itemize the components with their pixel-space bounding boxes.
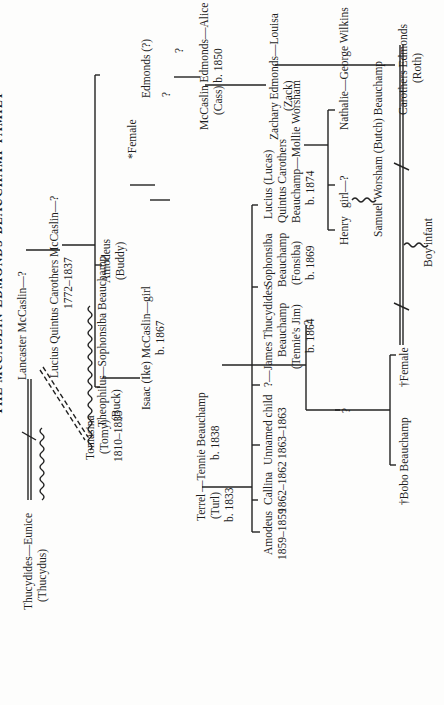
person-nathalie-george: Nathalie—George Wilkins xyxy=(338,7,351,130)
unknown-child-1: ? xyxy=(302,320,315,325)
unknown-parent-1: ? xyxy=(160,92,173,97)
person-fonsiba: Sophonsiba xyxy=(262,233,275,287)
person-edmonds-unknown: Edmonds (?) xyxy=(140,39,153,98)
person-female-star: *Female xyxy=(126,119,139,159)
person-lancaster-mccaslin: Lancaster McCaslin—? xyxy=(16,271,29,380)
person-bobo-beauchamp: †Bobo Beauchamp xyxy=(398,417,411,505)
person-carothers-edmonds: Carothers Edmonds xyxy=(397,24,410,115)
person-james-nickname: (Tennie's Jim) xyxy=(290,304,303,369)
person-thucydides-eunice: Thucydides—Eunice xyxy=(22,513,35,610)
person-lucius-mccaslin: Lucius Quintus Carothers McCaslin—? xyxy=(48,196,61,378)
person-amodeus-buddy: Amodeus xyxy=(100,239,113,283)
person-unnamed-child-dates: 1863–1863 xyxy=(276,407,289,459)
person-samuel-worsham-beauchamp: Samuel Worsham (Butch) Beauchamp xyxy=(372,61,385,237)
person-mccaslin-edmonds-nickname: (Cass) b. 1850 xyxy=(212,48,225,115)
person-lucas-beauchamp: Lucius (Lucas) xyxy=(262,150,275,219)
person-girl: girl—? xyxy=(338,175,351,208)
person-zachary-edmonds: Zachary Edmonds—Louisa xyxy=(268,13,281,140)
person-callina: Callina xyxy=(262,472,275,505)
person-terrel-born: b. 1833 xyxy=(223,488,236,523)
person-thucydides-nickname: (Thucydus) xyxy=(36,549,49,602)
genealogy-chart: THE McCASLIN-EDMONDS-BEAUCHAMP FAMILY xyxy=(0,0,444,705)
person-boy-infant: Boy infant xyxy=(422,218,435,267)
person-tennie-born: b. 1838 xyxy=(209,426,222,461)
person-callina-dates: 1862–1862 xyxy=(276,461,289,513)
person-lucas-middle-names: Quintus Carothers xyxy=(276,139,289,223)
person-lucas-mollie: Beauchamp—Mollie Worsham xyxy=(290,80,303,223)
person-james-thucydides: James Thucydides xyxy=(262,286,275,370)
unknown-child-2: ? xyxy=(340,408,353,413)
person-carothers-nickname: (Roth) xyxy=(411,53,424,83)
person-amodeus-nickname: (Buddy) xyxy=(114,242,127,280)
person-terrel: Terrel xyxy=(195,494,208,521)
person-henry: Henry xyxy=(338,216,351,245)
person-fonsiba-nickname: (Fonsiba) xyxy=(290,241,303,285)
person-james-surname: Beauchamp xyxy=(276,303,289,357)
person-terrel-nickname: (Turl) xyxy=(209,492,222,519)
unknown-parent-2: ? xyxy=(173,48,186,53)
person-isaac-mccaslin: Isaac (Ike) McCaslin—girl xyxy=(140,286,153,410)
person-theophilus-nickname: (Buck) xyxy=(110,389,123,421)
person-amodeus: Amodeus xyxy=(262,511,275,555)
person-mccaslin-edmonds: McCaslin Edmonds—Alice xyxy=(198,3,211,130)
person-lucius-dates: 1772–1837 xyxy=(62,257,75,309)
person-theophilus: Theophilus xyxy=(96,375,109,427)
person-unnamed-child: Unnamed child xyxy=(262,394,275,465)
person-fonsiba-surname: Beauchamp xyxy=(276,233,289,287)
person-female-dagger: †Female xyxy=(398,347,411,387)
person-amodeus-dates: 1859–1859 xyxy=(276,508,289,560)
person-james-spouse-unknown: ?— xyxy=(262,370,275,387)
person-lucas-born: b. 1874 xyxy=(304,171,317,206)
person-isaac-born: b. 1867 xyxy=(154,321,167,356)
person-tennie-beauchamp: —Tennie Beauchamp xyxy=(195,392,208,492)
person-fonsiba-born: b. 1869 xyxy=(304,246,317,281)
